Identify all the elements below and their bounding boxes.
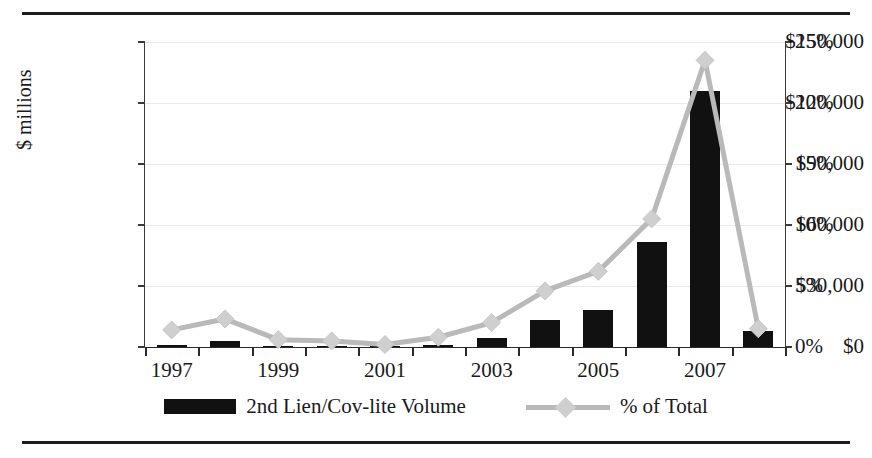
x-axis-tick bbox=[145, 348, 147, 356]
y-axis-title-left: $ millions bbox=[14, 69, 34, 150]
top-rule bbox=[22, 12, 850, 15]
x-axis-tick bbox=[305, 348, 307, 356]
y-axis-right-tick bbox=[785, 224, 792, 226]
bottom-rule bbox=[22, 441, 850, 444]
x-axis-tick bbox=[252, 348, 254, 356]
y-axis-right-tick-label: 20% bbox=[795, 92, 834, 113]
y-axis-left-tick bbox=[138, 163, 145, 165]
chart-figure: $ millions $0$30,000$60,000$90,000$120,0… bbox=[0, 0, 872, 458]
x-axis-tick-label: 2001 bbox=[364, 360, 406, 381]
x-axis-tick bbox=[625, 348, 627, 356]
x-axis-tick bbox=[412, 348, 414, 356]
y-axis-left-tick bbox=[138, 285, 145, 287]
line-path bbox=[172, 60, 759, 344]
x-axis-tick-label: 2005 bbox=[577, 360, 619, 381]
y-axis-left-tick bbox=[138, 346, 145, 348]
y-axis-right-tick-label: 15% bbox=[795, 153, 834, 174]
y-axis-right-tick-label: 25% bbox=[795, 31, 834, 52]
x-axis-tick bbox=[198, 348, 200, 356]
legend-label-percent: % of Total bbox=[620, 396, 708, 417]
bar-swatch-icon bbox=[164, 399, 236, 414]
y-axis-right-tick-label: 0% bbox=[795, 336, 823, 357]
legend-item-volume: 2nd Lien/Cov-lite Volume bbox=[164, 396, 466, 417]
y-axis-right-tick-label: 10% bbox=[795, 214, 834, 235]
legend-diamond-marker-icon bbox=[555, 396, 576, 417]
x-axis-tick bbox=[678, 348, 680, 356]
x-axis-tick bbox=[785, 348, 787, 356]
line-diamond-swatch-icon bbox=[526, 397, 610, 417]
legend-item-percent: % of Total bbox=[526, 396, 708, 417]
y-axis-left-tick bbox=[138, 224, 145, 226]
y-axis-right-tick-label: 5% bbox=[795, 275, 823, 296]
line-marker-diamond bbox=[269, 331, 287, 349]
y-axis-left-tick bbox=[138, 41, 145, 43]
y-axis-right-tick bbox=[785, 285, 792, 287]
x-axis-tick bbox=[518, 348, 520, 356]
line-marker-diamond bbox=[216, 310, 234, 328]
x-axis-tick bbox=[465, 348, 467, 356]
x-axis-tick-label: 2007 bbox=[684, 360, 726, 381]
line-marker-diamond bbox=[696, 51, 714, 69]
x-axis-tick bbox=[358, 348, 360, 356]
x-axis-tick bbox=[572, 348, 574, 356]
x-axis-tick-label: 1997 bbox=[151, 360, 193, 381]
line-marker-diamond bbox=[163, 321, 181, 339]
line-series-percent-of-total bbox=[145, 42, 785, 347]
x-axis-tick-label: 2003 bbox=[471, 360, 513, 381]
legend-label-volume: 2nd Lien/Cov-lite Volume bbox=[246, 396, 466, 417]
x-axis-tick-label: 1999 bbox=[257, 360, 299, 381]
y-axis-left-tick bbox=[138, 102, 145, 104]
line-marker-diamond bbox=[749, 320, 767, 338]
plot-area bbox=[145, 42, 785, 347]
y-axis-right-tick bbox=[785, 163, 792, 165]
chart-legend: 2nd Lien/Cov-lite Volume % of Total bbox=[0, 396, 872, 417]
line-marker-diamond bbox=[376, 336, 394, 354]
line-markers bbox=[163, 51, 768, 353]
line-marker-diamond bbox=[429, 328, 447, 346]
x-axis-tick bbox=[732, 348, 734, 356]
